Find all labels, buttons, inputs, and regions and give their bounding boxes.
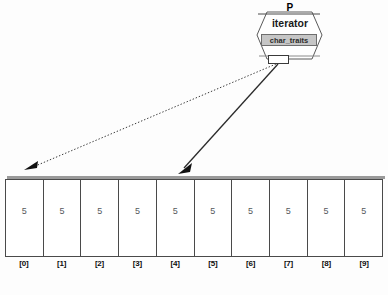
array-cell[interactable]: 5	[119, 180, 157, 256]
array-cell[interactable]: 5	[308, 180, 346, 256]
node-port-connector[interactable]	[268, 55, 289, 64]
array-cell[interactable]: 5	[232, 180, 270, 256]
array-index-label: [1]	[43, 259, 81, 273]
node-name-label: P	[258, 2, 322, 13]
array-index-label: [9]	[345, 259, 383, 273]
array-cell-value: 5	[97, 206, 102, 216]
array-cell[interactable]: 5	[44, 180, 82, 256]
array-container: 5 5 5 5 5 5 5 5 5 5	[5, 179, 383, 257]
array-cell-value: 5	[22, 206, 27, 216]
array-cell[interactable]: 5	[345, 180, 382, 256]
array-index-label: [3]	[118, 259, 156, 273]
array-index-row: [0] [1] [2] [3] [4] [5] [6] [7] [8] [9]	[5, 259, 383, 273]
diagram-canvas: P iterator char_traits 5 5 5 5 5 5 5 5 5	[0, 0, 388, 295]
dotted-arrow-head-icon	[24, 161, 38, 170]
array-index-label: [6]	[232, 259, 270, 273]
array-cell[interactable]: 5	[157, 180, 195, 256]
dotted-reference-arrow	[33, 64, 276, 167]
array-index-label: [2]	[81, 259, 119, 273]
array-cell-value: 5	[286, 206, 291, 216]
array-index-label: [4]	[156, 259, 194, 273]
array-cell-value: 5	[210, 206, 215, 216]
array-cell-value: 5	[323, 206, 328, 216]
array-index-label: [0]	[5, 259, 43, 273]
array-cell-value: 5	[173, 206, 178, 216]
node-stereotype-badge: char_traits	[261, 34, 317, 46]
array-cell[interactable]: 5	[195, 180, 233, 256]
array-cell-value: 5	[361, 206, 366, 216]
array-cell-value: 5	[248, 206, 253, 216]
array-index-label: [8]	[307, 259, 345, 273]
array-index-label: [5]	[194, 259, 232, 273]
array-cell[interactable]: 5	[270, 180, 308, 256]
array-index-label: [7]	[270, 259, 308, 273]
node-type-label: iterator	[252, 17, 328, 29]
array-cell[interactable]: 5	[6, 180, 44, 256]
array-cell-value: 5	[60, 206, 65, 216]
solid-reference-arrow	[184, 64, 278, 168]
array-cell[interactable]: 5	[81, 180, 119, 256]
solid-arrow-head-icon	[178, 163, 192, 174]
array-cell-value: 5	[135, 206, 140, 216]
